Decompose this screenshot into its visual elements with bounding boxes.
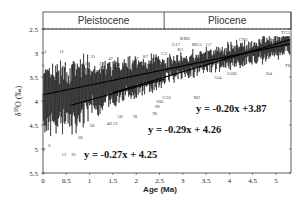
x-tick-label: 3 — [181, 177, 185, 185]
peak-label: 48 — [107, 121, 112, 126]
y-tick-label: 5 — [35, 146, 39, 154]
peak-label: TG5 — [281, 30, 290, 35]
peak-label: 47 — [108, 56, 113, 61]
equation-label: y = -0.20x +3.87 — [196, 103, 267, 114]
x-tick-label: 1 — [88, 177, 92, 185]
peak-label: 25 — [85, 61, 90, 66]
peak-label: 58 — [117, 114, 122, 119]
x-tick-label: 5 — [274, 177, 278, 185]
peak-label: MG5 — [192, 42, 203, 47]
peak-label: CN1 — [239, 37, 249, 42]
peak-label: 31 — [90, 54, 95, 59]
equations: y = -0.20x +3.87y = -0.29x + 4.26y = -0.… — [84, 103, 267, 160]
x-tick-label: 3.5 — [202, 177, 211, 185]
y-tick-label: 5.5 — [29, 170, 38, 178]
peak-label: T8 — [285, 63, 291, 68]
peak-label: 77 — [134, 56, 139, 61]
peak-label: 20 — [78, 135, 83, 140]
y-tick-label: 4 — [35, 98, 39, 106]
peak-label: G10 — [162, 95, 171, 100]
peak-label: 52 — [113, 121, 118, 126]
chart: PleistocenePliocene 12561112161920253031… — [0, 0, 307, 208]
peak-label: 16 — [71, 152, 76, 157]
x-tick-label: 0 — [41, 177, 45, 185]
peak-label: 12 — [62, 152, 67, 157]
peak-label: K1 — [178, 47, 184, 52]
x-tick-label: 1.5 — [109, 177, 118, 185]
peak-label: Gi4 — [214, 75, 222, 80]
y-tick-label: 3.5 — [29, 74, 38, 82]
x-axis-label: Age (Ma) — [143, 185, 177, 194]
y-tick-label: 2.5 — [29, 26, 38, 34]
peak-label: 55 — [115, 62, 120, 67]
peak-label: 63 — [122, 63, 127, 68]
peak-label: G3 — [161, 51, 167, 56]
equation-label: y = -0.27x + 4.25 — [84, 149, 157, 160]
peak-label: 19 — [77, 71, 82, 76]
x-tick-label: 0.5 — [62, 177, 71, 185]
peak-label: KM5 — [180, 36, 191, 41]
peak-label: 87 — [143, 54, 148, 59]
y-tick-label: 4.5 — [29, 122, 38, 130]
peak-label: Gi20 — [227, 71, 237, 76]
peak-label: 96 — [152, 111, 157, 116]
peak-label: 37 — [99, 61, 104, 66]
equation-label: y = -0.29x + 4.26 — [148, 124, 221, 135]
y-axis-label: δ18O (‰) — [13, 85, 23, 116]
epoch-label-pliocene: Pliocene — [208, 15, 247, 26]
x-tick-label: 2.5 — [155, 177, 164, 185]
peak-label: 30 — [90, 123, 95, 128]
peak-label: G7 — [205, 42, 211, 47]
peak-label: 78 — [132, 114, 137, 119]
peak-label: M2 — [193, 95, 200, 100]
epoch-bar: PleistocenePliocene — [43, 12, 291, 29]
peak-label: 98 — [155, 104, 160, 109]
peak-label: 11 — [59, 49, 64, 54]
x-tick-label: 4 — [228, 177, 232, 185]
epoch-label-pleistocene: Pleistocene — [78, 15, 130, 26]
peak-label: 6 — [48, 143, 51, 148]
x-tick-label: 2 — [134, 177, 138, 185]
x-tick-label: 4.5 — [248, 177, 257, 185]
peak-label: Si4 — [266, 71, 273, 76]
y-tick-label: 3 — [35, 50, 39, 58]
peak-label: 100 — [156, 99, 164, 104]
